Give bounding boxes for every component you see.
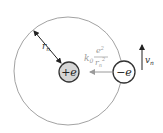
bohr-diagram: rn +e −e k0 e2 rn2 vn [0,0,163,133]
electron-charge-label: −e [116,66,132,79]
svg-text:k0: k0 [84,53,93,64]
svg-text:rn2: rn2 [95,56,105,68]
nucleus-charge-label: +e [61,66,77,79]
force-label: k0 e2 rn2 [84,45,108,68]
radius-label: rn [42,41,50,52]
velocity-label: vn [145,55,154,66]
svg-text:e2: e2 [96,45,104,55]
